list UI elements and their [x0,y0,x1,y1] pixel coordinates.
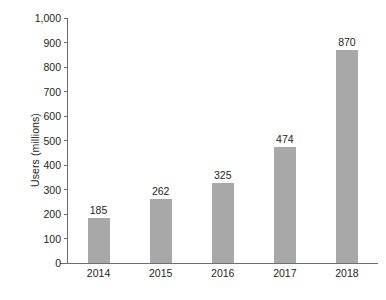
y-axis-tick: 400 [0,159,68,171]
y-axis-tick-label: 600 [43,110,61,122]
y-axis-tick-label: 200 [43,208,61,220]
y-axis-tick: 100 [0,233,68,245]
y-axis-tick: 0 [0,257,68,269]
x-axis-tick-label: 2017 [260,267,310,279]
bar: 870 [336,50,358,263]
y-axis-tick-mark [64,189,68,190]
bar-rect [88,218,110,263]
bar: 185 [88,218,110,263]
y-axis-tick-label: 400 [43,159,61,171]
bar-rect [150,199,172,263]
bar-rect [212,183,234,263]
y-axis-tick: 200 [0,208,68,220]
y-axis-tick-label: 500 [43,135,61,147]
y-axis-tick-label: 100 [43,233,61,245]
bar-value-label: 325 [198,169,248,181]
bar-value-label: 262 [136,185,186,197]
y-axis-tick: 600 [0,110,68,122]
y-axis-tick: 300 [0,184,68,196]
y-axis-tick-mark [64,238,68,239]
y-axis-tick-mark [64,67,68,68]
y-axis-tick-mark [64,263,68,264]
y-axis-tick-mark [64,140,68,141]
x-axis-tick-label: 2018 [322,267,372,279]
x-axis-tick-label: 2014 [74,267,124,279]
bar-value-label: 185 [74,204,124,216]
bar: 325 [212,183,234,263]
bar: 474 [274,147,296,263]
y-axis-tick-mark [64,214,68,215]
bar-value-label: 870 [322,36,372,48]
y-axis-tick-label: 1,000 [35,12,61,24]
y-axis-tick: 900 [0,37,68,49]
y-axis-tick-label: 0 [55,257,61,269]
y-axis-tick-label: 700 [43,86,61,98]
y-axis-tick-mark [64,165,68,166]
y-axis-tick: 800 [0,61,68,73]
y-axis-tick-label: 900 [43,37,61,49]
bar-chart: Users (millions) 01002003004005006007008… [0,0,386,300]
bar-value-label: 474 [260,133,310,145]
y-axis-tick-label: 300 [43,184,61,196]
bar-rect [336,50,358,263]
y-axis-tick-mark [64,116,68,117]
x-axis-line [60,263,378,264]
y-axis-tick: 500 [0,135,68,147]
bar: 262 [150,199,172,263]
y-axis-tick-label: 800 [43,61,61,73]
y-axis-tick: 700 [0,86,68,98]
x-axis-tick-label: 2015 [136,267,186,279]
y-axis-tick-mark [64,18,68,19]
y-axis-tick-mark [64,91,68,92]
y-axis-tick: 1,000 [0,12,68,24]
bar-rect [274,147,296,263]
y-axis-tick-mark [64,42,68,43]
x-axis-tick-label: 2016 [198,267,248,279]
